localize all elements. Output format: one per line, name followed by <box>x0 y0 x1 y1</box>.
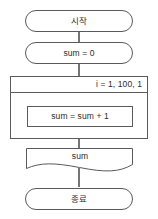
node-loop-label: i = 1, 100, 1 <box>96 80 142 89</box>
flowchart-diagram: 시작 sum = 0 i = 1, 100, 1 sum = sum + 1 s… <box>0 0 158 219</box>
node-init-label: sum = 0 <box>63 49 94 58</box>
node-output-label: sum <box>72 152 88 161</box>
node-end-label: 종료 <box>71 195 87 204</box>
node-body-label: sum = sum + 1 <box>51 112 109 121</box>
node-start-label: 시작 <box>71 17 87 26</box>
flowchart-canvas <box>0 0 158 219</box>
